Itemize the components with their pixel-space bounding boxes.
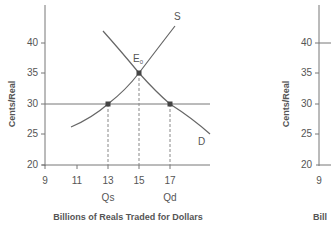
qd-label: Qd bbox=[163, 192, 176, 203]
point-qd bbox=[168, 102, 173, 107]
left-chart: 40 35 30 25 20 9 11 13 15 17 Qs Qd Cents… bbox=[7, 5, 210, 222]
y-tick-35: 35 bbox=[27, 67, 39, 78]
equilibrium-label: E0 bbox=[133, 53, 144, 65]
x-tick-9: 9 bbox=[42, 175, 48, 186]
x-tick-11: 11 bbox=[72, 175, 83, 186]
qs-label: Qs bbox=[102, 192, 115, 203]
x-axis-title: Billions of Reals Traded for Dollars bbox=[53, 212, 203, 222]
y-tick-30: 30 bbox=[27, 98, 39, 109]
right-chart: 40 35 30 25 20 9 Cents/Real Bill bbox=[281, 5, 331, 222]
right-x-axis-title: Bill bbox=[313, 212, 327, 222]
right-x-tick-9: 9 bbox=[316, 175, 322, 186]
right-y-tick-30: 30 bbox=[301, 98, 313, 109]
x-tick-13: 13 bbox=[102, 175, 114, 186]
chart-canvas: 40 35 30 25 20 9 11 13 15 17 Qs Qd Cents… bbox=[0, 0, 331, 228]
point-equilibrium bbox=[137, 71, 142, 76]
y-axis-title: Cents/Real bbox=[7, 81, 17, 128]
right-y-axis-title: Cents/Real bbox=[281, 81, 291, 128]
y-tick-20: 20 bbox=[27, 159, 39, 170]
supply-curve bbox=[71, 26, 175, 127]
right-y-tick-20: 20 bbox=[301, 159, 313, 170]
right-y-tick-40: 40 bbox=[301, 37, 313, 48]
right-y-tick-35: 35 bbox=[301, 67, 313, 78]
x-tick-17: 17 bbox=[164, 175, 176, 186]
y-tick-25: 25 bbox=[27, 128, 39, 139]
point-qs bbox=[106, 102, 111, 107]
right-y-tick-25: 25 bbox=[301, 128, 313, 139]
x-tick-15: 15 bbox=[133, 175, 145, 186]
supply-label: S bbox=[174, 11, 181, 22]
y-tick-40: 40 bbox=[27, 37, 39, 48]
demand-curve bbox=[103, 31, 210, 134]
demand-label: D bbox=[198, 136, 205, 147]
